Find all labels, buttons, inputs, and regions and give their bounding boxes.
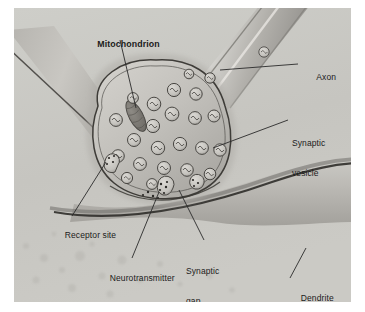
synaptic-vesicle	[165, 107, 179, 121]
label-synaptic-gap-line1: Synaptic	[186, 266, 219, 276]
label-axon-text: Axon	[316, 72, 336, 82]
synaptic-vesicle	[196, 142, 209, 155]
label-mitochondrion-text: Mitochondrion	[97, 39, 159, 49]
label-synaptic-vesicle: Synaptic vesicle	[292, 118, 325, 198]
label-synaptic-vesicle-line1: Synaptic	[292, 138, 325, 148]
label-dendrite: Dendrite	[286, 283, 334, 302]
synaptic-vesicle	[173, 137, 186, 150]
synaptic-vesicle	[190, 88, 202, 100]
label-dendrite-text: Dendrite	[301, 293, 334, 302]
neurotransmitter-dot	[147, 191, 149, 193]
synaptic-vesicle	[128, 134, 141, 147]
synaptic-vesicle	[189, 112, 202, 125]
label-synaptic-gap-line2: gap	[186, 296, 219, 302]
synaptic-vesicle	[110, 114, 123, 127]
label-synaptic-vesicle-line2: vesicle	[292, 168, 325, 178]
synaptic-vesicle	[146, 119, 159, 132]
synaptic-vesicle	[204, 168, 216, 180]
synaptic-vesicle	[134, 158, 147, 171]
synaptic-vesicle	[147, 179, 158, 190]
synaptic-vesicle	[181, 164, 194, 177]
synaptic-vesicle	[121, 172, 132, 183]
fusing-vesicle-right	[190, 174, 205, 189]
neurotransmitter-dot	[142, 194, 144, 196]
label-neurotransmitter-text: Neurotransmitter	[110, 273, 175, 283]
label-receptor-site-text: Receptor site	[65, 230, 116, 240]
diagram-canvas: Mitochondrion Axon Synaptic vesicle Rece…	[14, 8, 351, 302]
synaptic-vesicle	[147, 97, 161, 111]
label-neurotransmitter: Neurotransmitter	[95, 263, 175, 293]
label-mitochondrion: Mitochondrion	[82, 29, 160, 59]
label-axon: Axon	[302, 62, 336, 92]
synaptic-vesicle	[205, 73, 215, 83]
synaptic-vesicle	[167, 83, 180, 96]
synaptic-vesicle	[184, 69, 194, 79]
label-receptor-site: Receptor site	[50, 220, 116, 250]
synaptic-vesicle	[151, 141, 164, 154]
synaptic-vesicle	[158, 162, 171, 175]
synaptic-vesicle	[208, 110, 220, 122]
neurotransmitter-dot	[152, 195, 154, 197]
synapse-figure: Mitochondrion Axon Synaptic vesicle Rece…	[0, 0, 365, 312]
axon-vesicle	[259, 47, 269, 57]
label-synaptic-gap: Synaptic gap	[186, 246, 219, 302]
